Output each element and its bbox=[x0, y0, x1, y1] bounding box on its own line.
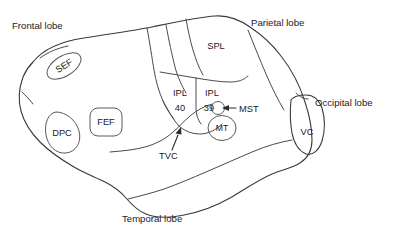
region-label-ipl39-number: 39 bbox=[204, 103, 214, 113]
region-label-vc: VC bbox=[301, 127, 314, 137]
intraparietal-sulcus bbox=[160, 72, 248, 82]
region-label-mt: MT bbox=[216, 123, 229, 133]
ipl-division-boundary bbox=[196, 78, 201, 124]
region-labels-group: SEF DPC FEF SPL IPL 40 IPL 39 MT VC bbox=[52, 41, 314, 138]
region-label-ipl39: IPL bbox=[205, 88, 219, 98]
brain-diagram-figure: Frontal lobe Parietal lobe Occipital lob… bbox=[0, 0, 398, 238]
region-label-dpc: DPC bbox=[52, 128, 72, 138]
postcentral-sulcus bbox=[186, 19, 203, 75]
region-label-ipl40-number: 40 bbox=[175, 103, 185, 113]
region-label-sef: SEF bbox=[54, 57, 75, 75]
lobe-label-frontal: Frontal lobe bbox=[12, 20, 63, 31]
callout-label-tvc: TVC bbox=[159, 151, 178, 161]
region-label-ipl40: IPL bbox=[173, 88, 187, 98]
region-label-fef: FEF bbox=[97, 117, 115, 127]
region-label-spl: SPL bbox=[207, 41, 225, 51]
brain-outer-outline bbox=[19, 16, 312, 217]
tvc-arrowhead bbox=[176, 127, 182, 135]
parieto-occipital-boundary bbox=[248, 30, 284, 110]
lobe-label-occipital: Occipital lobe bbox=[315, 97, 373, 108]
central-sulcus bbox=[166, 25, 186, 93]
temporal-superior-boundary bbox=[128, 140, 292, 199]
sylvian-fissure bbox=[110, 104, 212, 152]
frontal-lateral-indent bbox=[22, 92, 33, 104]
brain-lateral-view-svg: Frontal lobe Parietal lobe Occipital lob… bbox=[0, 0, 398, 238]
mst-arrowhead bbox=[222, 105, 229, 111]
lobe-label-temporal: Temporal lobe bbox=[122, 213, 182, 224]
callout-label-mst: MST bbox=[239, 104, 259, 114]
tvc-leader-line bbox=[172, 135, 178, 150]
lobe-label-parietal: Parietal lobe bbox=[251, 17, 304, 28]
